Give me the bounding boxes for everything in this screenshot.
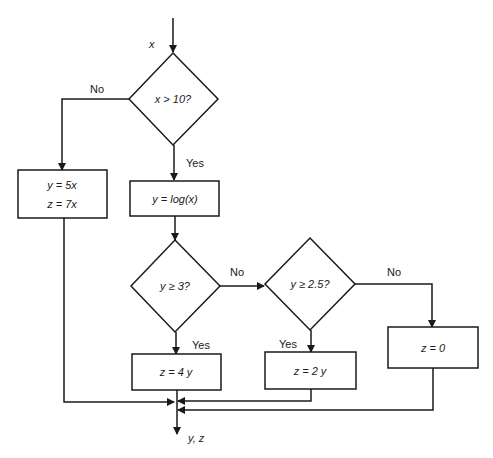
decision-1-text: x > 10? [154, 93, 192, 105]
process-y-log-x: y = log(x) [130, 181, 219, 216]
d2-no-label: No [230, 266, 244, 278]
edge-p4-merge [178, 389, 311, 401]
d3-yes-label: Yes [279, 338, 297, 350]
process-z-2y: z = 2 y [265, 352, 356, 389]
edge-d3-no [355, 284, 432, 327]
decision-2-text: y ≥ 3? [159, 280, 191, 292]
process-z-0: z = 0 [388, 327, 478, 368]
d2-yes-label: Yes [192, 339, 210, 351]
d3-no-label: No [387, 266, 401, 278]
edge-d1-no [62, 99, 129, 170]
process-2-line-1: y = log(x) [151, 193, 198, 205]
decision-y-ge-2-5: y ≥ 2.5? [265, 238, 355, 330]
d1-yes-label: Yes [186, 157, 204, 169]
decision-3-text: y ≥ 2.5? [289, 278, 330, 290]
process-1-line-1: y = 5x [46, 179, 77, 191]
flowchart: x x > 10? No Yes y = 5x z = 7x y = log(x… [0, 0, 493, 458]
decision-x-gt-10: x > 10? [129, 53, 218, 145]
process-y-5x-z-7x: y = 5x z = 7x [18, 170, 107, 218]
d1-no-label: No [90, 83, 104, 95]
process-z-4y: z = 4 y [132, 354, 221, 390]
process-4-line-1: z = 2 y [293, 365, 328, 377]
process-5-line-1: z = 0 [420, 342, 446, 354]
process-3-line-1: z = 4 y [159, 366, 194, 378]
input-label: x [148, 38, 155, 50]
flowchart-svg: x x > 10? No Yes y = 5x z = 7x y = log(x… [0, 0, 493, 458]
process-1-line-2: z = 7x [46, 198, 77, 210]
output-label: y, z [187, 432, 205, 444]
decision-y-ge-3: y ≥ 3? [131, 240, 220, 332]
